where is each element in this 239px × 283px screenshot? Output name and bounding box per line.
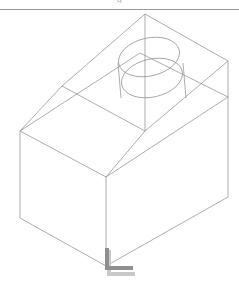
roof-left-to-front-edge (62, 86, 145, 131)
ucs-x-arm-shadow (107, 272, 135, 276)
box-solid-group (20, 53, 228, 266)
box-bottom-left-edge (20, 218, 106, 266)
ucs-x-axis-arm[interactable] (105, 266, 133, 270)
cylinder-right-silhouette (183, 63, 186, 98)
pyramid-roof-group (20, 14, 228, 177)
roof-left-skirt-edge (20, 86, 62, 131)
cylinder-group (115, 32, 187, 104)
wireframe-drawing (0, 0, 239, 283)
box-top-left-back-edge (20, 53, 140, 131)
roof-apex-to-left-edge (62, 14, 145, 86)
box-top-left-front-edge (20, 131, 106, 177)
box-bottom-right-edge (106, 197, 228, 266)
roof-back-skirt-edge (106, 131, 145, 177)
box-top-front-right-edge (106, 97, 228, 177)
cad-viewport-root: g (0, 0, 239, 283)
cylinder-top-ellipse (115, 32, 184, 83)
cylinder-bottom-ellipse (118, 53, 187, 104)
